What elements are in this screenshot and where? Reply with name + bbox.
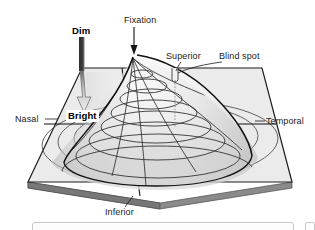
label-fixation: Fixation [124,16,156,25]
bottom-frame-edge [32,222,294,230]
label-blind-spot: Blind spot [219,52,260,61]
label-inferior: Inferior [105,208,134,217]
hill-of-vision-figure: Fixation Dim Bright Superior Blind spot … [0,0,315,230]
label-dim: Dim [72,26,90,36]
hill-of-vision-svg [0,0,315,230]
label-superior: Superior [166,52,201,61]
fixation-arrow-icon [131,27,138,55]
bottom-frame-corner [305,222,315,230]
label-bright: Bright [66,110,99,122]
label-nasal: Nasal [15,115,39,124]
label-temporal: Temporal [266,117,304,126]
